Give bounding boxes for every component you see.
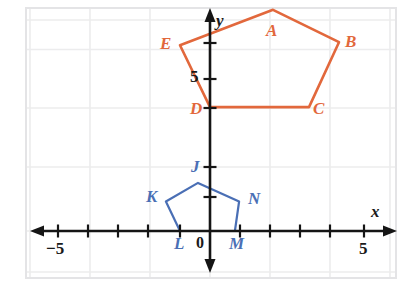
vertex-label-c: C bbox=[313, 100, 324, 117]
vertex-label-m: M bbox=[229, 235, 244, 252]
y-tick-label-5: 5 bbox=[190, 68, 199, 85]
coordinate-plane-figure: A B C D E J K L M N y x 5 −5 5 0 bbox=[0, 0, 419, 286]
vertex-label-n: N bbox=[248, 190, 260, 207]
x-tick-label-neg5: −5 bbox=[46, 240, 64, 257]
vertex-label-a: A bbox=[266, 22, 277, 39]
vertex-label-l: L bbox=[174, 235, 184, 252]
y-axis-label: y bbox=[216, 12, 224, 29]
vertex-label-e: E bbox=[160, 35, 171, 52]
vertex-label-b: B bbox=[345, 33, 356, 50]
vertex-label-k: K bbox=[146, 188, 157, 205]
x-axis-label: x bbox=[371, 203, 380, 220]
vertex-label-d: D bbox=[190, 100, 202, 117]
x-tick-label-pos5: 5 bbox=[359, 240, 368, 257]
vertex-label-j: J bbox=[191, 158, 200, 175]
origin-label: 0 bbox=[196, 235, 204, 251]
